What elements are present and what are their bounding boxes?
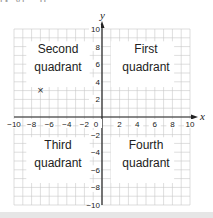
y-tick-label: 4 xyxy=(96,78,101,87)
fourth-quadrant-label-line1: Fourth xyxy=(129,138,164,152)
x-tick-label: −4 xyxy=(62,120,72,129)
second-quadrant-label-line2: quadrant xyxy=(34,60,82,74)
y-tick-label: −4 xyxy=(91,148,101,157)
x-tick-label: −2 xyxy=(80,120,90,129)
third-quadrant-label-line2: quadrant xyxy=(34,156,82,170)
x-tick-label: 8 xyxy=(170,120,175,129)
x-axis-arrow-icon xyxy=(191,115,198,120)
point-marker: × xyxy=(37,84,43,96)
x-tick-label: 4 xyxy=(135,120,140,129)
x-tick-label: 10 xyxy=(186,120,195,129)
fourth-quadrant-label-line2: quadrant xyxy=(122,156,170,170)
x-tick-label: −6 xyxy=(45,120,55,129)
y-tick-label: 2 xyxy=(96,95,101,104)
y-axis-label: y xyxy=(99,9,105,21)
x-tick-label: 6 xyxy=(153,120,158,129)
x-tick-label: 2 xyxy=(117,120,122,129)
second-quadrant-label-line1: Second xyxy=(38,42,79,56)
y-tick-label: −8 xyxy=(91,183,101,192)
x-tick-label: −8 xyxy=(27,120,37,129)
x-axis-label: x xyxy=(199,110,205,122)
coordinate-plane: xy−10−8−6−4−20246810108642−2−4−6−8−10Sec… xyxy=(0,0,213,218)
y-tick-label: 8 xyxy=(96,43,101,52)
third-quadrant-label-line1: Third xyxy=(44,138,71,152)
y-tick-label: −10 xyxy=(86,201,100,210)
y-tick-label: −6 xyxy=(91,166,101,175)
y-tick-label: 10 xyxy=(91,25,100,34)
bottom-divider xyxy=(0,212,213,218)
first-quadrant-label-line1: First xyxy=(134,42,158,56)
x-tick-label: 0 xyxy=(94,120,99,129)
y-tick-label: −2 xyxy=(91,131,101,140)
y-tick-label: 6 xyxy=(96,60,101,69)
first-quadrant-label-line2: quadrant xyxy=(122,60,170,74)
x-tick-label: −10 xyxy=(7,120,21,129)
